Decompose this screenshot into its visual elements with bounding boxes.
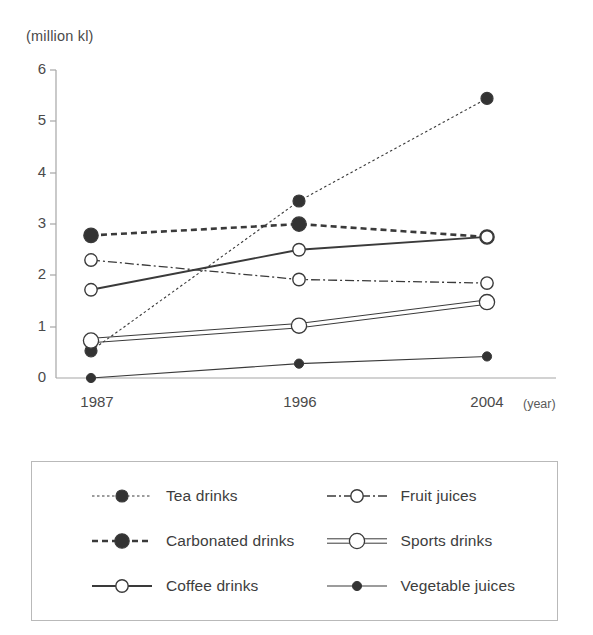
data-point [84,228,98,242]
legend-label: Vegetable juices [401,577,516,595]
legend-swatch-small-filled-circle-icon [325,576,389,596]
legend-swatch-large-filled-circle-icon [90,531,154,551]
data-point [293,273,305,285]
data-point [86,373,95,382]
series-sports-drinks [83,294,494,348]
legend-label: Coffee drinks [166,577,258,595]
legend-item-vegetable-juices[interactable]: Vegetable juices [295,576,558,596]
data-point [291,318,306,333]
legend-item-carbonated-drinks[interactable]: Carbonated drinks [32,531,295,551]
data-point [293,195,305,207]
chart-legend: Tea drinksFruit juicesCarbonated drinksS… [31,461,558,621]
legend-swatch-open-circle-icon [325,486,389,506]
data-point [479,294,494,309]
legend-item-coffee-drinks[interactable]: Coffee drinks [32,576,295,596]
legend-swatch-large-open-circle-icon [325,531,389,551]
data-point [292,217,306,231]
data-point [85,254,97,266]
series-tea-drinks [85,92,493,356]
legend-label: Fruit juices [401,487,477,505]
series-fruit-juices [85,254,493,289]
chart-container: (million kl) 6 5 4 3 2 1 0 1987 1996 200… [0,0,593,635]
data-point [294,359,303,368]
data-point [83,333,98,348]
data-point [481,231,493,243]
legend-label: Sports drinks [401,532,493,550]
legend-swatch-open-circle-icon [90,576,154,596]
legend-label: Carbonated drinks [166,532,294,550]
data-point [481,92,493,104]
plot-area [0,0,593,450]
series-coffee-drinks [85,231,493,296]
data-point [482,352,491,361]
data-point [293,244,305,256]
legend-item-sports-drinks[interactable]: Sports drinks [295,531,558,551]
legend-swatch-filled-circle-icon [90,486,154,506]
legend-item-fruit-juices[interactable]: Fruit juices [295,486,558,506]
data-point [85,284,97,296]
legend-item-tea-drinks[interactable]: Tea drinks [32,486,295,506]
data-point [481,277,493,289]
legend-label: Tea drinks [166,487,238,505]
series-layer [83,92,494,382]
